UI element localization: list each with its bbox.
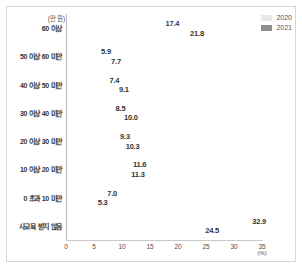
bar-value-label: 7.7 <box>111 56 121 65</box>
legend-item-2020[interactable]: 2020 <box>261 14 292 21</box>
bar-value-label: 9.3 <box>120 132 130 141</box>
x-tick-label: 10 <box>118 243 125 250</box>
bar-row: 9.1 <box>66 85 117 94</box>
category-label: 20 이상 30 미만 <box>20 136 62 146</box>
legend-swatch-icon <box>261 15 272 21</box>
x-tick-label: 25 <box>202 243 209 250</box>
bar-value-label: 11.3 <box>131 169 144 178</box>
x-axis-unit-label: (%) <box>257 250 266 256</box>
x-tick-label: 15 <box>146 243 153 250</box>
bar-group: 20 이상 30 미만9.310.3 <box>66 127 262 155</box>
bar-value-label: 10.3 <box>126 141 140 150</box>
bar-row: 11.3 <box>66 169 129 178</box>
x-tick-label: 35 <box>258 243 265 250</box>
category-label: 40 이상 50 미만 <box>20 80 62 90</box>
y-axis-unit-label: (만 원) <box>20 13 65 23</box>
legend-label: 2020 <box>276 14 292 21</box>
legend-swatch-icon <box>261 25 272 31</box>
x-axis-line <box>66 240 263 241</box>
bar-group: 10 이상 20 미만11.611.3 <box>66 155 262 183</box>
bar-value-label: 7.0 <box>107 188 117 197</box>
legend-label: 2021 <box>276 24 292 31</box>
bar-row: 21.8 <box>66 28 188 37</box>
bar-group: 0 초과 10 미만7.05.3 <box>66 184 262 212</box>
bar-row: 10.3 <box>66 141 124 150</box>
bar-row: 24.5 <box>66 226 203 235</box>
bar-value-label: 10.0 <box>124 113 138 122</box>
category-label: 30 이상 40 미만 <box>20 108 62 118</box>
bar-row: 5.3 <box>66 198 96 207</box>
bar-value-label: 32.9 <box>252 216 266 225</box>
category-label: 10 이상 20 미만 <box>20 164 62 174</box>
bar-value-label: 21.8 <box>190 28 204 37</box>
bar-value-label: 17.4 <box>165 19 179 28</box>
bar-group: 50 이상 60 미만5.97.7 <box>66 42 262 70</box>
bar-value-label: 24.5 <box>205 226 219 235</box>
bar-row: 9.3 <box>66 132 118 141</box>
bar-value-label: 9.1 <box>119 85 129 94</box>
legend-item-2021[interactable]: 2021 <box>261 24 292 31</box>
plot-area: 60 이상17.421.850 이상 60 미만5.97.740 이상 50 미… <box>66 14 262 240</box>
chart-legend: 20202021 <box>261 14 292 31</box>
bar-group: 30 이상 40 미만8.510.0 <box>66 99 262 127</box>
bar-value-label: 7.4 <box>109 75 119 84</box>
bar-row: 8.5 <box>66 103 114 112</box>
bar-row: 11.6 <box>66 160 131 169</box>
category-label: 0 초과 10 미만 <box>23 193 62 203</box>
bar-value-label: 5.3 <box>98 198 108 207</box>
bar-value-label: 11.6 <box>133 160 146 169</box>
x-tick-label: 5 <box>92 243 96 250</box>
bar-row: 32.9 <box>66 216 250 225</box>
chart-container: (만 원) 60 이상17.421.850 이상 60 미만5.97.740 이… <box>0 0 302 268</box>
category-label: 50 이상 60 미만 <box>20 51 62 61</box>
x-tick-label: 20 <box>174 243 181 250</box>
bar-row: 17.4 <box>66 19 163 28</box>
category-label: 사교육 받지 않음 <box>19 221 62 231</box>
bar-value-label: 8.5 <box>116 103 126 112</box>
bar-row: 10.0 <box>66 113 122 122</box>
x-tick-label: 0 <box>64 243 68 250</box>
bar-row: 5.9 <box>66 47 99 56</box>
bar-row: 7.4 <box>66 75 107 84</box>
bar-group: 60 이상17.421.8 <box>66 14 262 42</box>
bar-row: 7.0 <box>66 188 105 197</box>
bar-value-label: 5.9 <box>101 47 111 56</box>
x-tick-label: 30 <box>230 243 237 250</box>
bar-group: 사교육 받지 않음32.924.5 <box>66 212 262 240</box>
category-label: 60 이상 <box>42 23 62 33</box>
bar-group: 40 이상 50 미만7.49.1 <box>66 71 262 99</box>
bar-row: 7.7 <box>66 56 109 65</box>
